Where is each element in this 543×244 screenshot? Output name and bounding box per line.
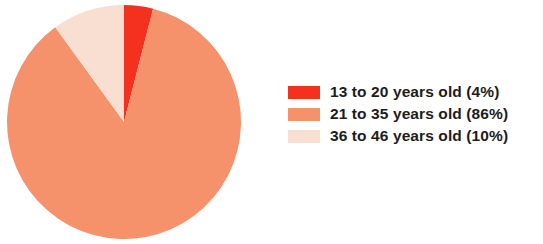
pie-chart-plot-area [0,0,270,244]
legend-label-21-to-35: 21 to 35 years old (86%) [330,106,508,122]
legend-item-21-to-35[interactable]: 21 to 35 years old (86%) [288,103,538,125]
legend-item-36-to-46[interactable]: 36 to 46 years old (10%) [288,125,538,147]
legend-item-13-to-20[interactable]: 13 to 20 years old (4%) [288,81,538,103]
legend-label-36-to-46: 36 to 46 years old (10%) [330,128,508,144]
legend-swatch-13-to-20 [288,86,320,99]
pie-chart-svg [0,0,270,244]
legend-swatch-36-to-46 [288,130,320,143]
pie-slice-group [7,5,241,239]
legend-swatch-21-to-35 [288,108,320,121]
chart-legend: 13 to 20 years old (4%) 21 to 35 years o… [288,81,538,147]
legend-label-13-to-20: 13 to 20 years old (4%) [330,84,499,100]
pie-chart-figure: 13 to 20 years old (4%) 21 to 35 years o… [0,0,543,244]
